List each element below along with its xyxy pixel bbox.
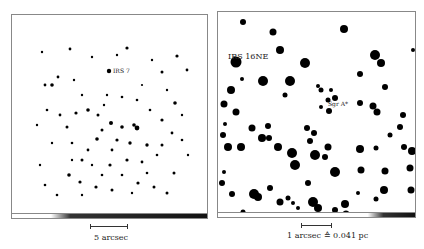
right-colorbar [217,212,416,218]
left-scale-bar [90,224,128,229]
left-colorbar [11,213,208,219]
left-scale-label: 5 arcsec [94,233,128,242]
left-image-panel: IRS 7 [11,14,208,215]
right-image-panel: IRS 16NE Sgr A* [217,11,416,214]
right-scale-label: 1 arcsec ≙ 0.041 pc [287,231,368,240]
irs16ne-label: IRS 16NE [228,52,268,61]
right-star-field [218,12,415,213]
left-star-field [12,15,207,214]
sgr-a-star-label: Sgr A* [328,100,348,107]
irs7-label: IRS 7 [113,67,130,74]
right-scale-bar [301,223,332,228]
